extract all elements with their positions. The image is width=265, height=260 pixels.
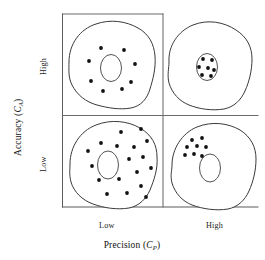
sample-dot xyxy=(200,154,204,158)
sample-dot xyxy=(125,191,129,195)
sample-dot xyxy=(117,177,121,181)
sample-dot xyxy=(139,127,143,131)
sample-dot xyxy=(122,48,126,52)
sample-dot xyxy=(144,195,148,199)
quadrant-high-accuracy-low-precision xyxy=(69,21,155,109)
y-tick-high: High xyxy=(39,58,48,75)
sample-dot xyxy=(210,58,214,62)
sample-dot xyxy=(119,130,123,134)
sample-dot xyxy=(120,87,124,91)
x-axis-title-text: Precision xyxy=(104,240,141,250)
quadrant-figure: High Low Accuracy (CA) Low High Precisio… xyxy=(0,0,265,260)
population-blob xyxy=(171,123,256,209)
sample-dot xyxy=(129,80,133,84)
x-tick-low: Low xyxy=(99,221,114,230)
sample-dot xyxy=(195,144,199,148)
sample-dot xyxy=(89,79,93,83)
svg-text:Accuracy (CA): Accuracy (CA) xyxy=(13,99,24,156)
sample-dot xyxy=(86,149,90,153)
sample-dot xyxy=(139,184,143,188)
sample-dot xyxy=(135,170,139,174)
y-axis-ticks: High Low xyxy=(39,58,48,172)
y-axis-title-text: Accuracy xyxy=(13,118,23,156)
sample-dot xyxy=(145,139,149,143)
sample-dot xyxy=(133,62,137,66)
y-axis-title: Accuracy (CA) xyxy=(13,99,24,156)
sample-dot xyxy=(192,152,196,156)
sample-dot xyxy=(87,59,91,63)
sample-dot xyxy=(200,73,204,77)
svg-text:Precision (CP): Precision (CP) xyxy=(104,240,161,251)
sample-dot xyxy=(201,57,205,61)
quadrant-low-accuracy-high-precision xyxy=(171,123,256,209)
x-axis-ticks: Low High xyxy=(99,221,223,230)
sample-dot xyxy=(105,192,109,196)
sample-dot xyxy=(212,68,216,72)
accuracy-precision-diagram: High Low Accuracy (CA) Low High Precisio… xyxy=(0,0,265,260)
population-blob xyxy=(168,22,252,110)
sample-dot xyxy=(99,46,103,50)
sample-dot xyxy=(115,144,119,148)
sample-dot xyxy=(190,138,194,142)
quadrant-high-accuracy-high-precision xyxy=(168,22,252,110)
x-tick-high: High xyxy=(206,221,223,230)
sample-dot xyxy=(90,164,94,168)
sample-dot xyxy=(97,178,101,182)
population-blob xyxy=(70,121,157,208)
sample-dot xyxy=(197,65,201,69)
x-axis-title: Precision (CP) xyxy=(104,240,161,251)
sample-dot xyxy=(127,157,131,161)
sample-dot xyxy=(206,66,210,70)
sample-dot xyxy=(132,145,136,149)
population-blob xyxy=(69,21,155,109)
sample-dot xyxy=(99,141,103,145)
quadrant-low-accuracy-low-precision xyxy=(70,121,157,208)
sample-dot xyxy=(101,89,105,93)
sample-dot xyxy=(149,166,153,170)
sample-dot xyxy=(183,153,187,157)
y-tick-low: Low xyxy=(39,157,48,172)
sample-dot xyxy=(209,74,213,78)
sample-dot xyxy=(141,155,145,159)
sample-dot xyxy=(204,145,208,149)
sample-dot xyxy=(200,136,204,140)
sample-dot xyxy=(185,145,189,149)
